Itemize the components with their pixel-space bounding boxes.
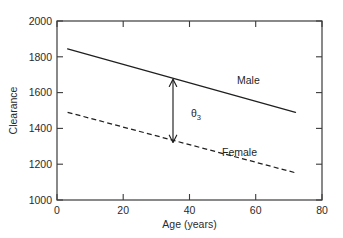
x-tick-label-80: 80 xyxy=(316,204,328,216)
series-label-female: Female xyxy=(222,146,257,158)
y-axis-title: Clearance xyxy=(7,86,19,134)
y-axis-ticks xyxy=(57,21,322,200)
y-tick-label-1200: 1200 xyxy=(29,158,53,170)
y-tick-label-1400: 1400 xyxy=(29,122,53,134)
series-line-female xyxy=(68,112,296,173)
x-axis-ticks xyxy=(57,21,322,200)
x-axis-title: Age (years) xyxy=(162,218,216,230)
theta3-annotation: θ3 xyxy=(169,79,201,142)
x-tick-label-20: 20 xyxy=(117,204,129,216)
clearance-vs-age-line-chart: 1000 1200 1400 1600 1800 2000 0 20 40 60… xyxy=(0,0,343,238)
x-tick-label-60: 60 xyxy=(250,204,262,216)
x-tick-label-0: 0 xyxy=(54,204,60,216)
y-tick-label-1000: 1000 xyxy=(29,194,53,206)
y-tick-label-1800: 1800 xyxy=(29,51,53,63)
theta3-label: θ3 xyxy=(191,107,201,122)
series-line-male xyxy=(68,49,296,113)
theta3-subscript: 3 xyxy=(197,113,201,122)
y-tick-label-2000: 2000 xyxy=(29,15,53,27)
x-tick-label-40: 40 xyxy=(184,204,196,216)
x-axis-tick-labels: 0 20 40 60 80 xyxy=(54,204,328,216)
y-tick-label-1600: 1600 xyxy=(29,86,53,98)
y-axis-tick-labels: 1000 1200 1400 1600 1800 2000 xyxy=(29,15,53,206)
series-label-male: Male xyxy=(237,74,260,86)
plot-frame xyxy=(57,21,322,200)
figure-container: 1000 1200 1400 1600 1800 2000 0 20 40 60… xyxy=(0,0,343,238)
